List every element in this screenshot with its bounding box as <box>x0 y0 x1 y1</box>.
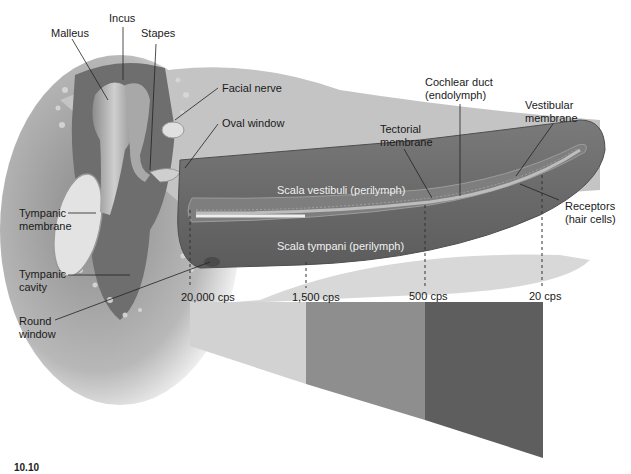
facial-nerve-shape <box>162 122 184 138</box>
round-window-shape <box>204 257 220 267</box>
label-stapes: Stapes <box>141 27 175 40</box>
label-receptors: Receptors (hair cells) <box>565 200 616 226</box>
freq-label-20: 20 cps <box>529 290 561 303</box>
label-incus: Incus <box>109 12 135 25</box>
figure-number: 10.10 <box>14 462 39 473</box>
label-tympanic-cavity: Tympanic cavity <box>19 268 66 294</box>
freq-label-20000: 20,000 cps <box>181 291 235 304</box>
label-cochlear-duct: Cochlear duct (endolymph) <box>425 76 493 102</box>
label-scala-vestibuli: Scala vestibuli (perilymph) <box>277 184 405 197</box>
label-vestibular-membrane: Vestibular membrane <box>525 99 578 125</box>
freq-label-1500: 1,500 cps <box>292 291 340 304</box>
label-malleus: Malleus <box>51 27 89 40</box>
diagram-canvas <box>0 0 631 474</box>
cochlea-diagram: Incus Malleus Stapes Facial nerve Oval w… <box>0 0 631 474</box>
freq-label-500: 500 cps <box>409 290 448 303</box>
label-scala-tympani: Scala tympani (perilymph) <box>277 240 404 253</box>
label-facial-nerve: Facial nerve <box>222 82 282 95</box>
label-tympanic-membrane: Tympanic membrane <box>19 207 72 233</box>
label-oval-window: Oval window <box>222 117 284 130</box>
frequency-wedge <box>190 302 543 458</box>
label-round-window: Round window <box>19 315 56 341</box>
label-tectorial-membrane: Tectorial membrane <box>380 123 433 149</box>
